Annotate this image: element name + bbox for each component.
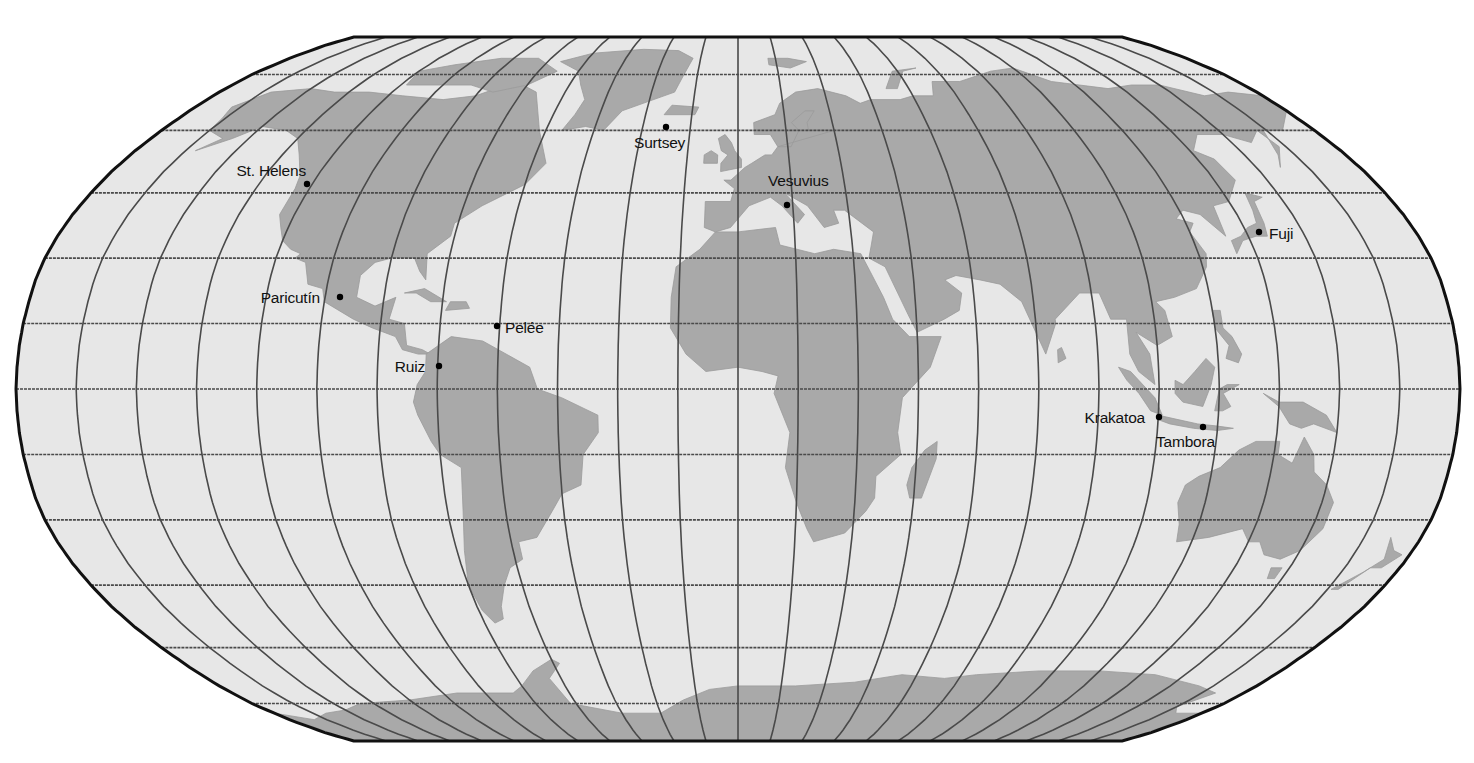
world-map: St. HelensSurtseyVesuviusFujiParicutínPe… bbox=[0, 0, 1474, 763]
volcano-dot-icon bbox=[337, 294, 343, 300]
volcano-label: Krakatoa bbox=[1085, 409, 1146, 426]
volcano-label: Surtsey bbox=[634, 134, 686, 151]
volcano-label: St. Helens bbox=[236, 162, 306, 179]
volcano-label: Fuji bbox=[1269, 225, 1293, 242]
volcano-dot-icon bbox=[1156, 414, 1162, 420]
volcano-label: Pelée bbox=[505, 319, 544, 336]
volcano-label: Ruiz bbox=[395, 358, 425, 375]
volcano-dot-icon bbox=[784, 202, 790, 208]
volcano-dot-icon bbox=[663, 124, 669, 130]
volcano-dot-icon bbox=[1200, 424, 1206, 430]
volcano-label: Tambora bbox=[1156, 433, 1215, 450]
volcano-dot-icon bbox=[436, 363, 442, 369]
volcano-label: Paricutín bbox=[261, 289, 320, 306]
volcano-dot-icon bbox=[304, 181, 310, 187]
volcano-dot-icon bbox=[1256, 229, 1262, 235]
volcano-label: Vesuvius bbox=[768, 172, 829, 189]
volcano-dot-icon bbox=[494, 323, 500, 329]
